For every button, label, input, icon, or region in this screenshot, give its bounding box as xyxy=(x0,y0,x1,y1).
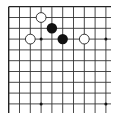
star-point xyxy=(104,102,107,105)
white-stone xyxy=(79,34,89,44)
white-stone xyxy=(36,13,46,23)
star-point xyxy=(104,38,107,41)
star-point xyxy=(40,38,43,41)
black-stone xyxy=(47,23,57,33)
white-stone xyxy=(25,34,35,44)
go-board xyxy=(0,0,116,115)
black-stone xyxy=(58,34,68,44)
star-point xyxy=(40,102,43,105)
